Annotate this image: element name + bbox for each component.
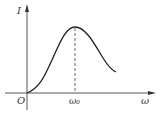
- y-axis-arrow-icon: [25, 4, 29, 12]
- x-axis-label: ω: [141, 95, 149, 106]
- resonance-diagram: I O ω₀ ω: [0, 0, 165, 118]
- peak-label: ω₀: [69, 96, 80, 106]
- resonance-curve: [27, 27, 116, 93]
- origin-label: O: [17, 95, 25, 106]
- y-axis-label: I: [16, 5, 22, 16]
- x-axis-arrow-icon: [148, 91, 156, 95]
